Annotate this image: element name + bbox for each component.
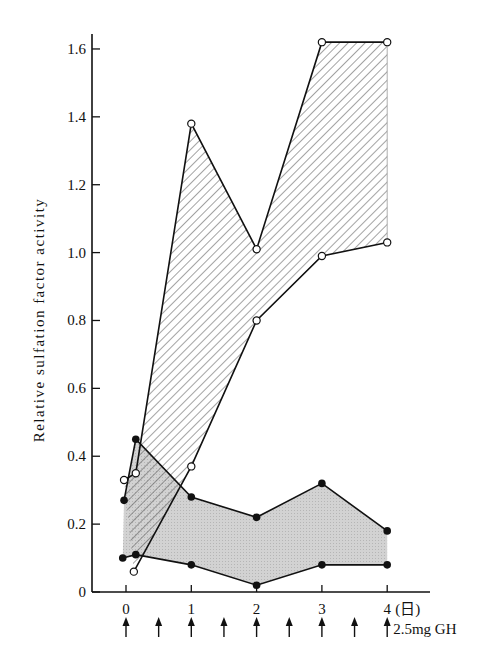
open-circle-marker	[253, 317, 260, 324]
injection-arrow-icon	[188, 617, 195, 637]
y-tick-label: 0.8	[67, 312, 86, 328]
y-tick-label: 0.6	[67, 380, 86, 396]
open-circle-marker	[130, 568, 137, 575]
y-tick-label: 0.2	[67, 516, 86, 532]
injection-arrow-icon	[351, 617, 358, 637]
y-tick-label: 1.4	[67, 109, 86, 125]
injection-arrow-icon	[318, 617, 325, 637]
x-tick-label: 3	[318, 601, 326, 617]
x-tick-label: 1	[188, 601, 196, 617]
arrow-head	[286, 617, 293, 626]
y-axis-label: Relative sulfation factor activity	[31, 198, 47, 443]
filled-circle-marker	[318, 561, 326, 569]
arrow-head	[384, 617, 391, 626]
filled-circle-marker	[253, 514, 261, 522]
filled-circle-marker	[120, 497, 128, 505]
open-circle-marker	[384, 239, 391, 246]
open-circle-marker	[132, 470, 139, 477]
injection-arrow-icon	[384, 617, 391, 637]
filled-circle-marker	[119, 554, 127, 562]
filled-circle-marker	[383, 561, 391, 569]
filled-circle-marker	[383, 527, 391, 535]
injection-arrow-icon	[155, 617, 162, 637]
arrow-head	[155, 617, 162, 626]
arrow-head	[253, 617, 260, 626]
bands	[123, 42, 387, 585]
open-circle-marker	[253, 246, 260, 253]
filled-circle-marker	[188, 493, 196, 501]
y-tick-label: 1.6	[67, 41, 86, 57]
x-unit-label: (日)	[395, 601, 420, 618]
injection-arrow-icon	[220, 617, 227, 637]
filled-circle-marker	[253, 581, 261, 589]
x-tick-label: 0	[122, 601, 130, 617]
arrow-head	[123, 617, 130, 626]
y-tick-label: 0.4	[67, 448, 86, 464]
injection-arrow-icon	[286, 617, 293, 637]
y-tick-label: 1.2	[67, 177, 86, 193]
injection-arrow-icon	[123, 617, 130, 637]
open-circle-marker	[188, 120, 195, 127]
filled-circle-marker	[132, 551, 140, 559]
injection-arrow-icon	[253, 617, 260, 637]
y-tick-label: 0	[79, 584, 87, 600]
open-circle-marker	[188, 463, 195, 470]
filled-circle-marker	[318, 480, 326, 488]
gh-dose-annotation: 2.5mg GH	[393, 621, 457, 637]
arrow-head	[188, 617, 195, 626]
open-circle-marker	[318, 39, 325, 46]
arrow-head	[318, 617, 325, 626]
sulfation-chart: 00.20.40.60.81.01.21.41.601234(日)Relativ…	[0, 0, 491, 662]
open-circle-marker	[384, 39, 391, 46]
x-tick-label: 2	[253, 601, 261, 617]
filled-circle-marker	[188, 561, 196, 569]
open-circle-marker	[318, 252, 325, 259]
x-tick-label: 4	[383, 601, 391, 617]
open-circle-marker	[120, 476, 127, 483]
y-tick-label: 1.0	[67, 245, 86, 261]
filled-circle-marker	[132, 435, 140, 443]
arrow-head	[220, 617, 227, 626]
arrow-head	[351, 617, 358, 626]
hatched-band	[124, 42, 387, 571]
